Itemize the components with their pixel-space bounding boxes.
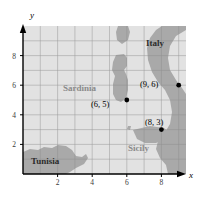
y-axis-label: y	[30, 10, 34, 20]
region-label-italy: Italy	[146, 38, 164, 48]
point-label-9-6: (9, 6)	[140, 79, 158, 89]
data-point-6-5	[124, 98, 129, 103]
point-label-6-5: (6, 5)	[91, 99, 109, 109]
x-tick-label-4: 4	[85, 178, 99, 187]
y-tick-label-8: 8	[9, 52, 19, 61]
x-tick-label-2: 2	[51, 178, 65, 187]
x-tick-label-6: 6	[120, 178, 134, 187]
point-label-8-3: (8, 3)	[145, 117, 163, 127]
data-point-8-3	[159, 127, 164, 132]
data-point-9-6	[176, 83, 181, 88]
x-axis-label: x	[189, 170, 193, 180]
region-label-sardinia: Sardinia	[63, 83, 96, 93]
y-tick-label-6: 6	[9, 81, 19, 90]
x-tick-label-8: 8	[154, 178, 168, 187]
region-label-tunisia: Tunisia	[31, 156, 59, 166]
y-tick-label-4: 4	[9, 111, 19, 120]
y-tick-label-2: 2	[9, 140, 19, 149]
region-label-sicily: Sicily	[128, 143, 149, 153]
coordinate-map-figure: y x 2 4 6 8 2 4 6 8 Italy Sardinia Sicil…	[0, 0, 198, 198]
